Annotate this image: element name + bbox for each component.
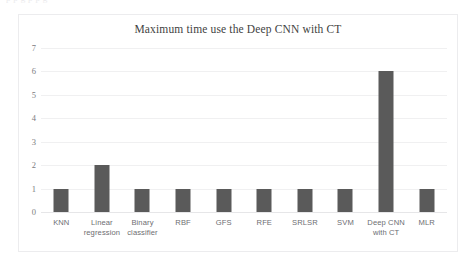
bar[interactable]: [297, 189, 312, 212]
y-axis-tick-label: 7: [32, 44, 36, 53]
bar-group: KNN: [41, 48, 82, 212]
bar[interactable]: [54, 189, 69, 212]
chart-title: Maximum time use the Deep CNN with CT: [19, 23, 457, 35]
bar[interactable]: [419, 189, 434, 212]
bar-group: RBF: [163, 48, 204, 212]
scan-artifact-top: p p g p p g: [0, 0, 472, 11]
x-axis-tick-label: GFS: [201, 218, 247, 228]
x-axis-tick-label: Linear regression: [79, 218, 125, 238]
x-axis-tick-label: KNN: [38, 218, 84, 228]
plot-area: 76543210 KNNLinear regressionBinary clas…: [41, 48, 447, 212]
bar-series: KNNLinear regressionBinary classifierRBF…: [41, 48, 447, 212]
bar[interactable]: [135, 189, 150, 212]
bar[interactable]: [338, 189, 353, 212]
bar-group: GFS: [203, 48, 244, 212]
gridline-0: [41, 212, 447, 213]
bar[interactable]: [216, 189, 231, 212]
x-axis-tick-label: SRLSR: [282, 218, 328, 228]
bar-group: Deep CNN with CT: [366, 48, 407, 212]
y-axis-tick-label: 4: [32, 114, 36, 123]
x-axis-tick-label: RBF: [160, 218, 206, 228]
y-axis-tick-label: 5: [32, 91, 36, 100]
x-axis-tick-label: MLR: [404, 218, 450, 228]
y-axis-tick-label: 0: [32, 208, 36, 217]
bar-group: Linear regression: [82, 48, 123, 212]
bar[interactable]: [257, 189, 272, 212]
bar[interactable]: [379, 71, 394, 212]
bar-group: SVM: [325, 48, 366, 212]
y-axis-tick-label: 1: [32, 184, 36, 193]
y-axis-tick-label: 2: [32, 161, 36, 170]
x-axis-tick-label: Binary classifier: [119, 218, 165, 238]
chart-container: Maximum time use the Deep CNN with CT 76…: [18, 14, 458, 252]
bar[interactable]: [176, 189, 191, 212]
bar-group: Binary classifier: [122, 48, 163, 212]
x-axis-tick-label: RFE: [241, 218, 287, 228]
bar-group: SRLSR: [285, 48, 326, 212]
scan-artifact-text: p p g p p g: [6, 0, 48, 3]
bar[interactable]: [94, 165, 109, 212]
y-axis-tick-label: 6: [32, 67, 36, 76]
bar-group: MLR: [406, 48, 447, 212]
bar-group: RFE: [244, 48, 285, 212]
y-axis-tick-label: 3: [32, 137, 36, 146]
x-axis-tick-label: Deep CNN with CT: [363, 218, 409, 238]
x-axis-tick-label: SVM: [322, 218, 368, 228]
